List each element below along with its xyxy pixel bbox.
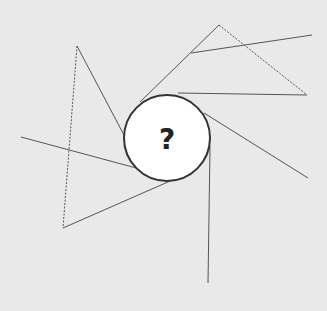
solid-line-0 xyxy=(77,46,125,137)
solid-line-7 xyxy=(208,147,210,283)
dashed-line-1 xyxy=(219,25,307,95)
solid-line-4 xyxy=(191,35,312,53)
diagram-canvas: ? xyxy=(0,0,327,311)
solid-line-1 xyxy=(21,137,140,169)
solid-line-3 xyxy=(140,25,219,102)
geometry-figure: ? xyxy=(0,0,327,311)
solid-line-2 xyxy=(63,178,177,228)
solid-line-5 xyxy=(178,93,307,95)
solid-line-6 xyxy=(204,113,308,178)
dashed-line-0 xyxy=(63,46,77,228)
question-mark-label: ? xyxy=(159,123,175,156)
